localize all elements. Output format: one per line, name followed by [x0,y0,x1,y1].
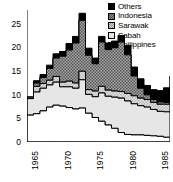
y-tick-label-0: 0 [3,138,21,147]
y-tick-label-20: 20 [3,43,21,52]
x-tick-label-1970: 1970 [64,151,73,170]
chart-figure: Others Indonesia Sarawak Sabah Philippin… [0,0,173,182]
y-tick-label-15: 15 [3,67,21,76]
plot-area [27,10,170,142]
x-tick-label-1985: 1985 [161,151,170,170]
y-tick-label-10: 10 [3,91,21,100]
stacked-area-svg [27,10,170,142]
x-tick-label-1965: 1965 [31,151,40,170]
y-tick-label-5: 5 [3,114,21,123]
x-tick-label-1975: 1975 [96,151,105,170]
y-tick-label-25: 25 [3,20,21,29]
x-tick-label-1980: 1980 [129,151,138,170]
